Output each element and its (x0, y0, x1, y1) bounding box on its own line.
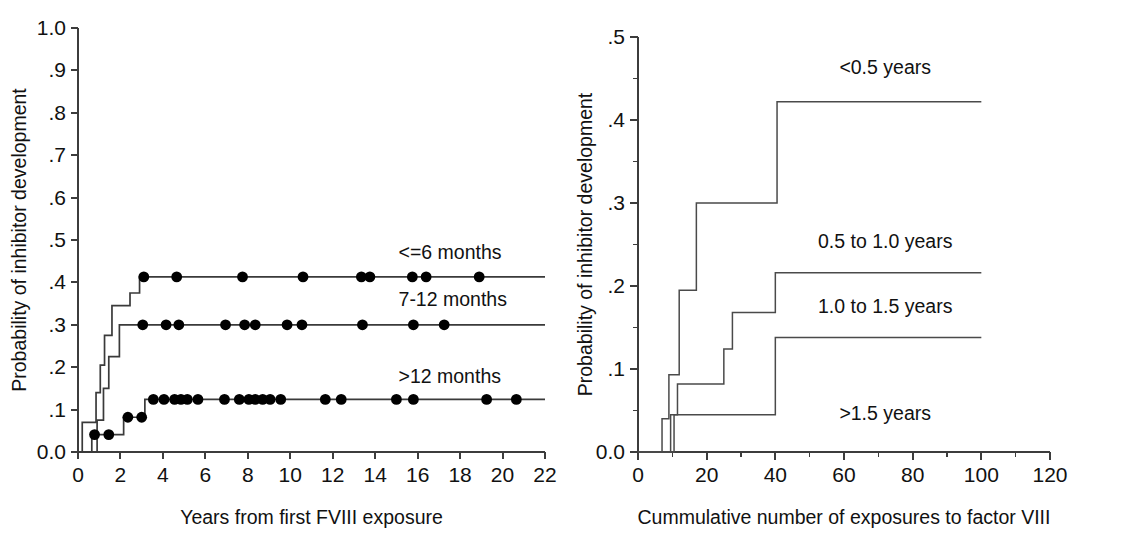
left-series-label-3: >12 months (399, 365, 502, 387)
left-x-tick-label: 0 (72, 463, 84, 486)
left-y-tick-label: .2 (48, 355, 66, 378)
left-censor-dot (357, 319, 368, 330)
left-x-tick-label: 8 (242, 463, 254, 486)
left-x-axis-title: Years from first FVIII exposure (180, 506, 443, 528)
left-x-tick-label: 22 (533, 463, 556, 486)
right-y-tick-label: .5 (607, 25, 625, 48)
left-censor-dot (122, 412, 133, 423)
left-censor-dot (136, 412, 147, 423)
right-y-tick-label: .4 (607, 108, 625, 131)
right-curve-3 (638, 337, 981, 452)
left-y-tick-label: .1 (48, 398, 66, 421)
right-x-tick-label: 0 (632, 463, 644, 486)
right-x-axis-title: Cummulative number of exposures to facto… (638, 506, 1051, 528)
left-y-axis-title: Probability of inhibitor development (8, 88, 30, 392)
right-y-tick-label: 0.0 (596, 440, 625, 463)
left-censor-dot (137, 319, 148, 330)
left-x-tick-label: 20 (491, 463, 514, 486)
left-censor-dot (159, 394, 170, 405)
left-censor-dot (234, 394, 245, 405)
left-censor-dot (103, 429, 114, 440)
left-censor-dot (391, 394, 402, 405)
left-censor-dot (171, 271, 182, 282)
left-y-tick-label: 1.0 (37, 16, 66, 39)
left-censor-dot (408, 319, 419, 330)
left-censor-dot (421, 271, 432, 282)
left-censor-dot (364, 271, 375, 282)
left-x-tick-label: 4 (157, 463, 169, 486)
right-chart-panel: 0.0.1.2.3.4.5020406080100120Cummulative … (570, 0, 1131, 552)
left-censor-dot (220, 319, 231, 330)
left-censor-dot (407, 271, 418, 282)
left-censor-dot (408, 394, 419, 405)
left-y-tick-label: 0.0 (37, 440, 66, 463)
left-chart-panel: 0.0.1.2.3.4.5.6.7.8.91.00246810121416182… (0, 0, 570, 552)
left-curve-3 (78, 399, 545, 452)
left-series-label-2: 7-12 months (399, 288, 508, 310)
left-censor-dot (161, 319, 172, 330)
left-x-tick-label: 12 (321, 463, 344, 486)
left-censor-dot (193, 394, 204, 405)
right-x-tick-label: 100 (964, 463, 999, 486)
left-censor-dot (250, 319, 261, 330)
right-x-tick-label: 40 (764, 463, 787, 486)
right-series-label-3: 1.0 to 1.5 years (818, 295, 953, 317)
left-censor-dot (297, 319, 308, 330)
left-censor-dot (511, 394, 522, 405)
left-censor-dot (298, 271, 309, 282)
left-censor-dot (182, 394, 193, 405)
right-series-label-1: <0.5 years (839, 56, 931, 78)
right-y-axis-title: Probability of inhibitor development (574, 92, 596, 396)
right-x-tick-label: 80 (901, 463, 924, 486)
left-y-tick-label: .9 (48, 58, 66, 81)
left-y-tick-label: .7 (48, 143, 66, 166)
left-curve-2 (78, 325, 545, 452)
right-chart-svg: 0.0.1.2.3.4.5020406080100120Cummulative … (570, 0, 1131, 552)
left-censor-dot (219, 394, 230, 405)
left-y-tick-label: .8 (48, 101, 66, 124)
left-y-tick-label: .6 (48, 186, 66, 209)
left-censor-dot (138, 271, 149, 282)
left-series-label-1: <=6 months (399, 241, 502, 263)
left-censor-dot (148, 394, 159, 405)
left-censor-dot (282, 319, 293, 330)
left-x-tick-label: 18 (448, 463, 471, 486)
right-x-tick-label: 20 (695, 463, 718, 486)
left-x-tick-label: 6 (200, 463, 212, 486)
right-y-tick-label: .2 (607, 274, 625, 297)
figure-container: 0.0.1.2.3.4.5.6.7.8.91.00246810121416182… (0, 0, 1131, 552)
right-curve-1 (638, 102, 981, 452)
right-series-label-2: 0.5 to 1.0 years (818, 230, 953, 252)
left-censor-dot (239, 319, 250, 330)
left-censor-dot (265, 394, 276, 405)
right-series-label-4: >1.5 years (839, 402, 931, 424)
left-censor-dot (336, 394, 347, 405)
right-x-tick-label: 60 (832, 463, 855, 486)
left-y-tick-label: .3 (48, 313, 66, 336)
left-censor-dot (173, 319, 184, 330)
left-x-tick-label: 10 (279, 463, 302, 486)
right-y-tick-label: .3 (607, 191, 625, 214)
left-chart-svg: 0.0.1.2.3.4.5.6.7.8.91.00246810121416182… (0, 0, 570, 552)
left-x-tick-label: 2 (115, 463, 127, 486)
left-censor-dot (439, 319, 450, 330)
left-y-tick-label: .4 (48, 270, 66, 293)
left-x-tick-label: 16 (406, 463, 429, 486)
right-y-tick-label: .1 (607, 357, 625, 380)
left-censor-dot (275, 394, 286, 405)
left-censor-dot (89, 429, 100, 440)
left-x-tick-label: 14 (364, 463, 388, 486)
left-censor-dot (474, 271, 485, 282)
right-x-tick-label: 120 (1032, 463, 1067, 486)
left-y-tick-label: .5 (48, 228, 66, 251)
left-censor-dot (237, 271, 248, 282)
left-censor-dot (481, 394, 492, 405)
left-censor-dot (320, 394, 331, 405)
